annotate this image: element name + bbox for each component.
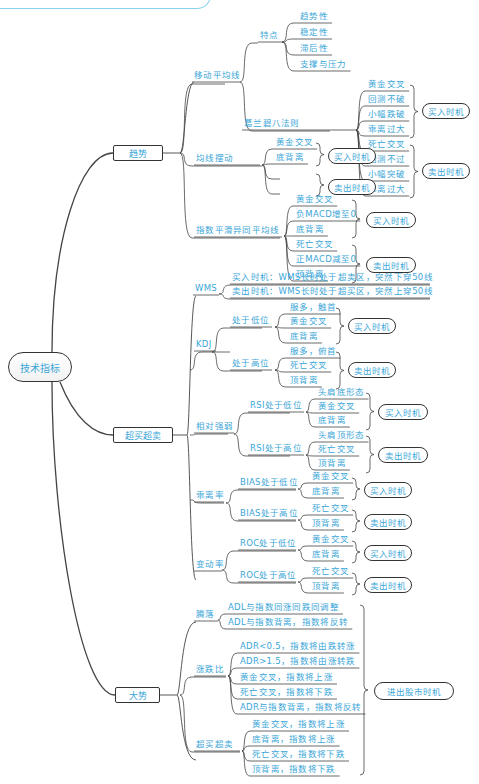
bias-low-item: 黄金交叉 [312, 471, 349, 482]
outcome-sell: 卖出时机 [328, 179, 376, 195]
node-market-obos: 超买超卖 [196, 739, 233, 750]
node-features: 特点 [260, 30, 279, 41]
adr-item: ADR>1.5，指数将由涨转跌 [240, 656, 355, 667]
obos-item: 顶背离，指数将下跌 [252, 764, 336, 775]
macd-sell-item: 正MACD减至0 [296, 254, 356, 265]
outcome-buy: 买入时机 [348, 318, 396, 334]
bias-low-item: 底背离 [312, 486, 340, 497]
node-kdj: KDJ [196, 339, 212, 350]
category-market: 大势 [115, 687, 160, 703]
outcome-buy: 买入时机 [328, 148, 376, 164]
category-trend: 趋势 [113, 145, 163, 161]
granville-buy-item: 小幅跌破 [368, 109, 405, 120]
node-adr: 涨跌比 [196, 664, 224, 675]
macd-sell-item: 死亡交叉 [296, 239, 333, 250]
kdj-low-item: 黄金交叉 [290, 316, 327, 327]
obos-item: 黄金交叉，指数将上涨 [252, 719, 345, 730]
node-roc: 变动率 [196, 559, 224, 570]
node-granville: 葛兰碧八法则 [244, 118, 300, 129]
node-kdj-low: 处于低位 [232, 315, 269, 326]
roc-low-item: 底背离 [312, 549, 340, 560]
roc-low-item: 黄金交叉 [312, 534, 349, 545]
feature-item: 支撑与压力 [300, 59, 347, 70]
adr-item: ADR<0.5，指数将由跌转涨 [240, 641, 355, 652]
feature-item: 滞后性 [300, 43, 328, 54]
swing-item: 黄金交叉 [276, 137, 313, 148]
kdj-low-item: 底背离 [290, 331, 318, 342]
obos-item: 死亡交叉，指数将下跌 [252, 749, 345, 760]
outcome-buy: 买入时机 [364, 482, 412, 498]
node-rsi-low: RSI处于低位 [250, 400, 302, 411]
node-macd: 指数平滑异同平均线 [196, 225, 280, 236]
swing-item: 底背离 [276, 152, 304, 163]
macd-buy-item: 负MACD增至0 [296, 209, 356, 220]
wms-sell-text: 卖出时机：WMS长时处于超买区，突然上穿50线 [232, 286, 433, 297]
macd-buy-item: 底背离 [296, 224, 324, 235]
outcome-sell: 卖出时机 [364, 577, 412, 593]
feature-item: 趋势性 [300, 11, 328, 22]
kdj-low-item: 服多，触首 [290, 302, 337, 313]
bias-high-item: 死亡交叉 [312, 503, 349, 514]
rsi-low-item: 底背离 [318, 415, 346, 426]
outcome-sell: 卖出时机 [348, 362, 396, 378]
outcome-market-timing: 进出股市时机 [374, 682, 454, 700]
outcome-sell: 卖出时机 [366, 257, 416, 273]
node-bias-low: BIAS处于低位 [240, 477, 298, 488]
outcome-sell: 卖出时机 [378, 447, 428, 463]
node-roc-low: ROC处于低位 [240, 538, 297, 549]
node-ma-swing: 均线摆动 [196, 153, 233, 164]
obos-item: 底背离，指数将上涨 [252, 734, 336, 745]
roc-high-item: 死亡交叉 [312, 566, 349, 577]
node-bias: 乖离率 [196, 490, 224, 501]
mind-map-canvas: 技术指标趋势超买超卖大势移动平均线均线摆动指数平滑异同平均线特点葛兰碧八法则趋势… [0, 0, 479, 784]
node-kdj-high: 处于高位 [232, 358, 269, 369]
outcome-buy: 买入时机 [366, 212, 416, 228]
rsi-high-item: 顶背离 [318, 458, 346, 469]
feature-item: 稳定性 [300, 27, 328, 38]
kdj-high-item: 死亡交叉 [290, 360, 327, 371]
granville-buy-item: 黄金交叉 [368, 79, 405, 90]
node-roc-high: ROC处于高位 [240, 570, 297, 581]
outcome-buy: 买入时机 [364, 545, 412, 561]
rsi-low-item: 头肩底形态 [318, 387, 365, 398]
rsi-high-item: 头肩顶形态 [318, 430, 365, 441]
granville-sell-item: 死亡交叉 [368, 139, 405, 150]
adr-item: ADR与指数背离，指数将反转 [240, 702, 361, 713]
roc-high-item: 顶背离 [312, 581, 340, 592]
node-moving-average: 移动平均线 [194, 70, 241, 81]
macd-buy-item: 黄金交叉 [296, 194, 333, 205]
granville-buy-item: 回测不破 [368, 94, 405, 105]
kdj-high-item: 顶背离 [290, 375, 318, 386]
adl-item: ADL与指数同涨同跌同调整 [228, 602, 339, 613]
rsi-low-item: 黄金交叉 [318, 401, 355, 412]
node-wms: WMS [195, 283, 217, 294]
outcome-buy: 买入时机 [422, 103, 470, 119]
granville-buy-item: 乖离过大 [368, 124, 405, 135]
adr-item: 黄金交叉，指数将上涨 [240, 672, 333, 683]
node-adl: 腾落 [196, 609, 215, 620]
node-rsi-high: RSI处于高位 [250, 443, 302, 454]
root-node: 技术指标 [8, 352, 72, 382]
outcome-sell: 卖出时机 [422, 163, 470, 179]
adl-item: ADL与指数背离，指数将反转 [228, 617, 348, 628]
node-bias-high: BIAS处于高位 [240, 508, 298, 519]
kdj-high-item: 服多，俯首 [290, 346, 337, 357]
wms-buy-text: 买入时机：WMS长时处于超卖区，突然下穿50线 [232, 272, 433, 283]
node-rsi: 相对强弱 [196, 421, 233, 432]
outcome-sell: 卖出时机 [364, 514, 412, 530]
category-overbought: 超买超卖 [113, 427, 173, 443]
bias-high-item: 顶背离 [312, 518, 340, 529]
granville-sell-item: 小幅突破 [368, 169, 405, 180]
rsi-high-item: 死亡交叉 [318, 444, 355, 455]
outcome-buy: 买入时机 [378, 404, 428, 420]
adr-item: 死亡交叉，指数将下跌 [240, 687, 333, 698]
